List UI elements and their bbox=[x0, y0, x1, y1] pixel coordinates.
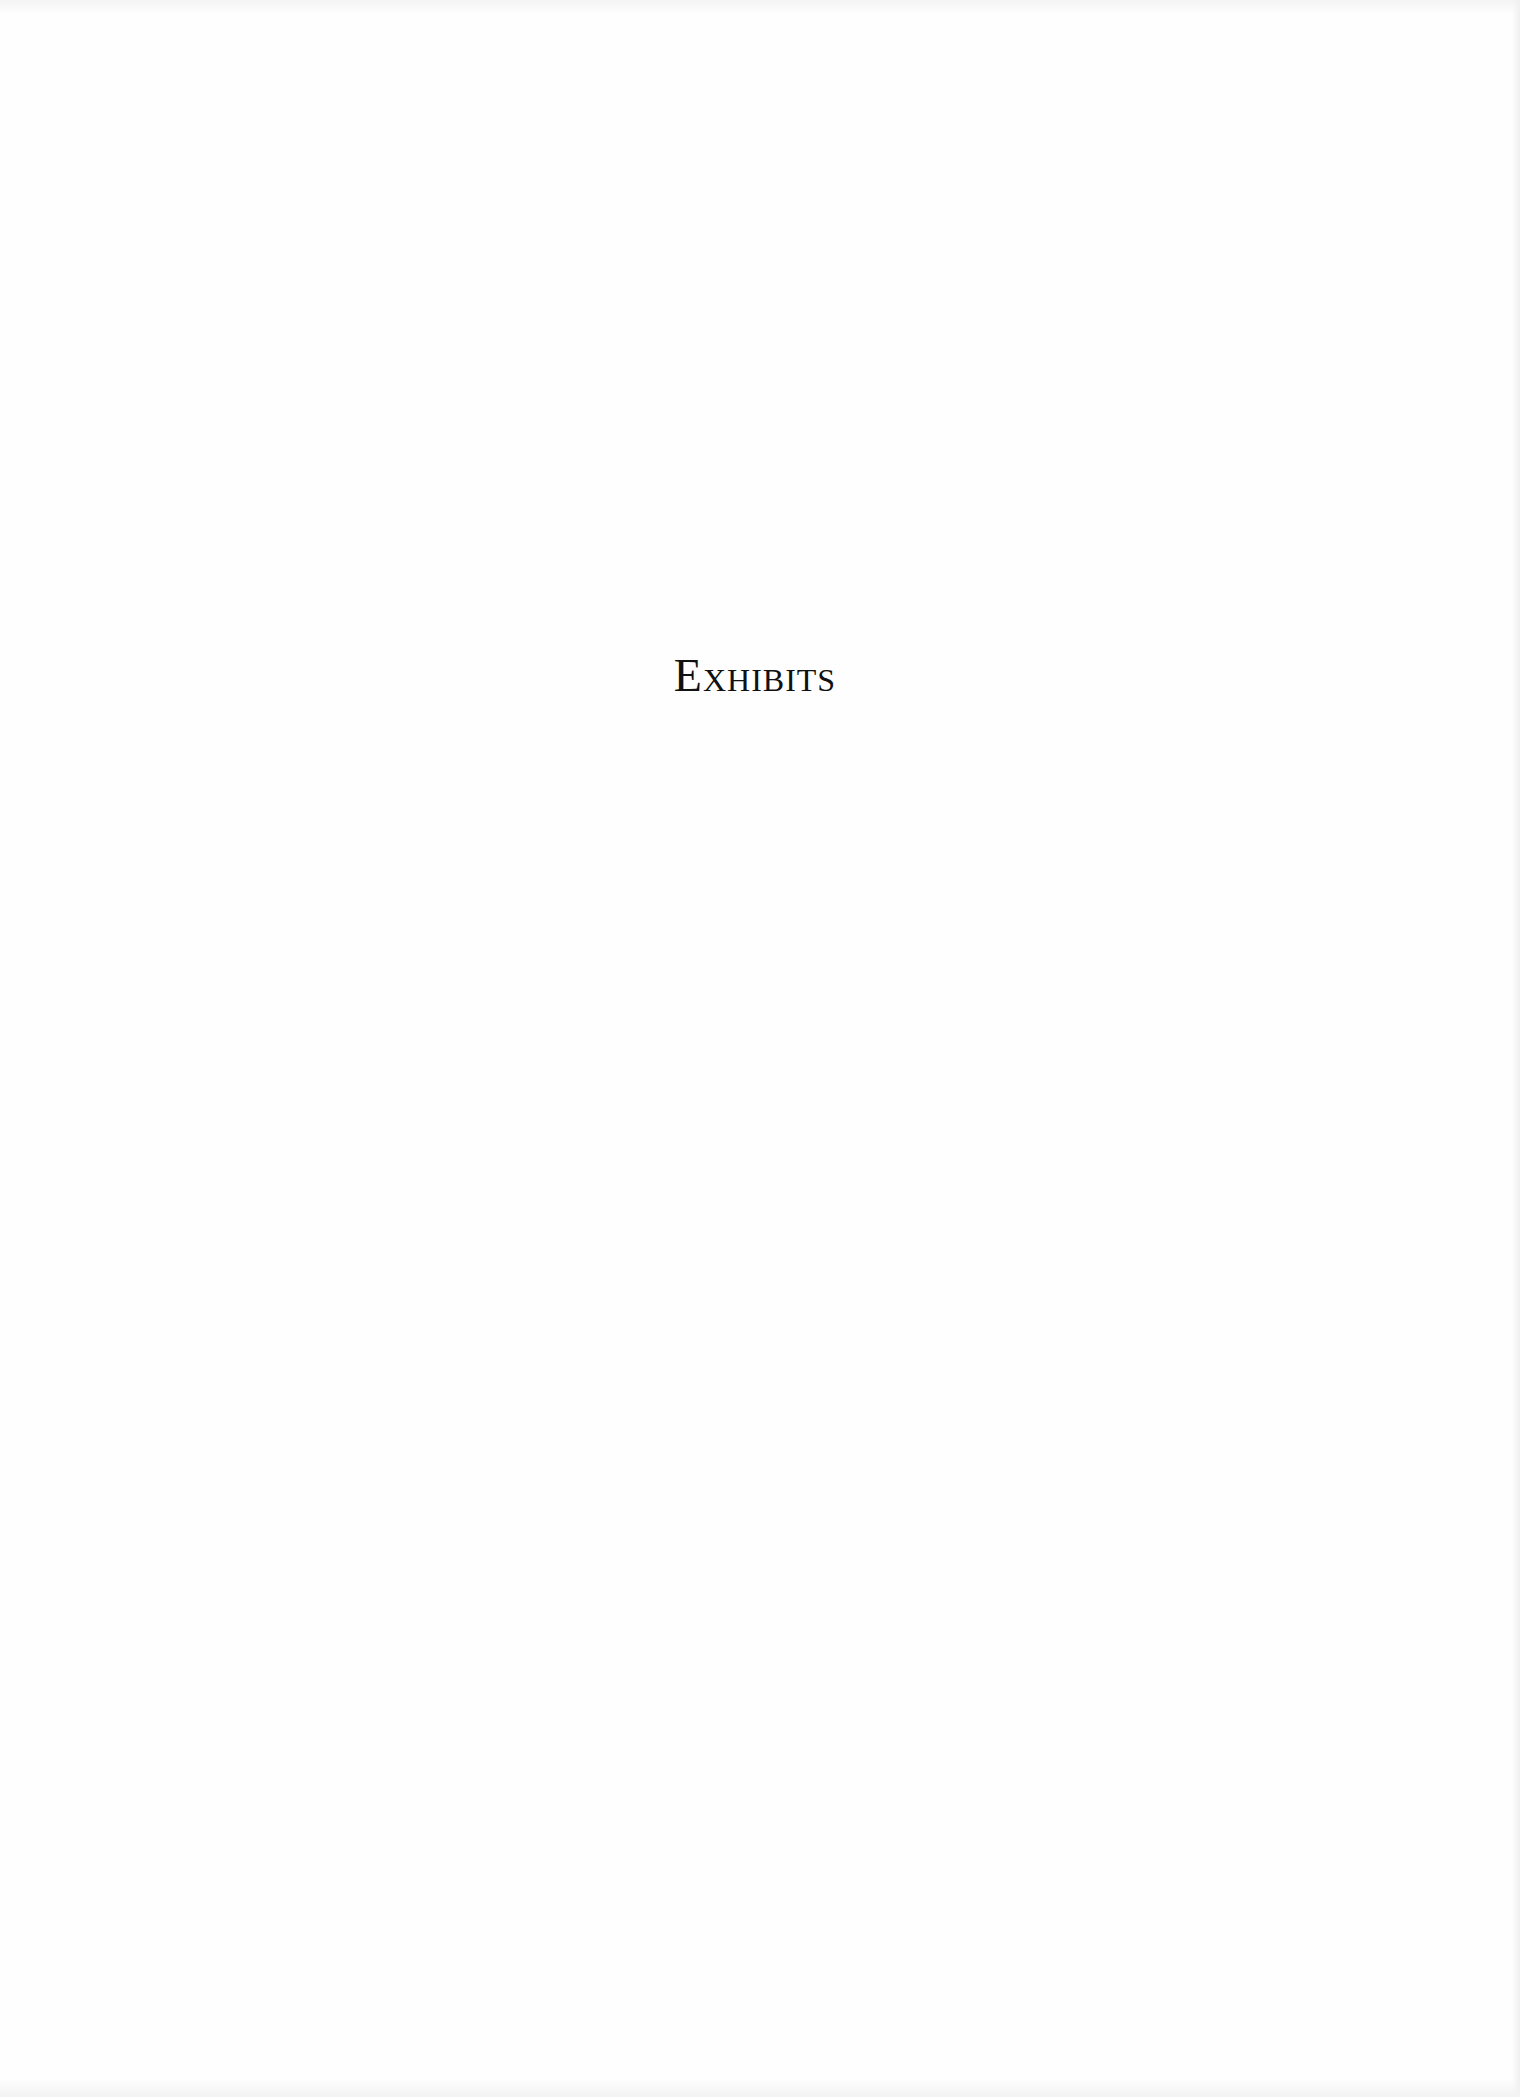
document-page: Exhibits bbox=[0, 0, 1520, 2097]
section-title: Exhibits bbox=[0, 653, 1510, 699]
scan-edge-bottom bbox=[0, 2079, 1520, 2097]
scan-edge-right bbox=[1512, 0, 1520, 2097]
scan-edge-top bbox=[0, 0, 1520, 14]
